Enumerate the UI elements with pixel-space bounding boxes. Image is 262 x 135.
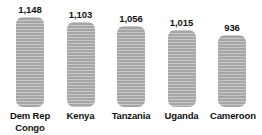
bar-value-label: 1,103 — [69, 9, 92, 20]
bar-chart: 1,148 1,103 1,056 1,015 936 Dem Rep Cong… — [0, 0, 262, 135]
category-label: Kenya — [59, 107, 103, 122]
bar-value-label: 1,148 — [18, 4, 41, 15]
category-label-line: Tanzania — [109, 110, 153, 122]
chart-category-axis: Dem Rep Congo Kenya Tanzania Uganda Came… — [0, 107, 262, 135]
category-label: Uganda — [160, 107, 204, 122]
category-label-line: Cameroon — [210, 110, 254, 122]
category-label: Cameroon — [210, 107, 254, 122]
category-label: Dem Rep Congo — [8, 107, 52, 133]
category-label-line: Uganda — [160, 110, 204, 122]
bar — [218, 35, 246, 107]
bar-value-label: 1,015 — [170, 17, 193, 28]
bar — [168, 30, 196, 107]
bar-group: 1,103 — [59, 0, 103, 107]
category-label-line: Dem Rep — [8, 110, 52, 122]
category-label-line: Congo — [8, 122, 52, 134]
bar-value-label: 1,056 — [119, 13, 142, 24]
bar — [16, 17, 44, 107]
bar-value-label: 936 — [224, 22, 240, 33]
bar-group: 1,148 — [8, 0, 52, 107]
bar-group: 936 — [210, 0, 254, 107]
category-label: Tanzania — [109, 107, 153, 122]
chart-plot-area: 1,148 1,103 1,056 1,015 936 — [0, 0, 262, 107]
bar-group: 1,015 — [160, 0, 204, 107]
bar — [117, 26, 145, 107]
category-label-line: Kenya — [59, 110, 103, 122]
bar — [67, 22, 95, 107]
bar-group: 1,056 — [109, 0, 153, 107]
